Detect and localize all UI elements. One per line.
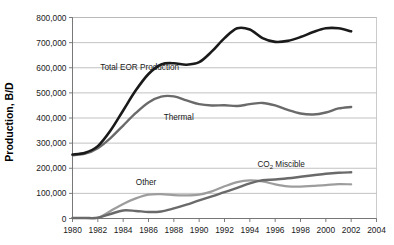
data-series-group: [73, 28, 352, 219]
y-tick-label: 500,000: [36, 88, 67, 98]
annotation-other: Other: [136, 178, 157, 187]
y-tick-label: 0: [62, 214, 67, 224]
chart-container: 0100,000200,000300,000400,000500,000600,…: [0, 0, 394, 245]
x-tick-label: 2000: [317, 225, 336, 235]
x-tick-label: 1986: [139, 225, 158, 235]
y-tick-label: 300,000: [36, 138, 67, 148]
x-tick-label: 1982: [89, 225, 108, 235]
x-tick-label: 1990: [190, 225, 209, 235]
annotation-total-eor-production: Total EOR Production: [100, 63, 179, 72]
y-axis-title: Production, B/D: [3, 82, 15, 162]
x-axis-ticks: 1980198219841986198819901992199419961998…: [63, 219, 386, 235]
annotation-co2-miscible: CO2 Miscible: [257, 160, 305, 170]
y-tick-label: 400,000: [36, 113, 67, 123]
y-axis-ticks: 0100,000200,000300,000400,000500,000600,…: [36, 13, 72, 224]
y-tick-label: 100,000: [36, 188, 67, 198]
x-tick-label: 2004: [367, 225, 386, 235]
y-tick-label: 700,000: [36, 38, 67, 48]
x-tick-label: 1992: [215, 225, 234, 235]
x-tick-label: 1994: [241, 225, 260, 235]
series-line-co2-miscible: [73, 172, 352, 218]
y-tick-label: 200,000: [36, 163, 67, 173]
x-tick-label: 1996: [266, 225, 285, 235]
annotation-thermal: Thermal: [164, 113, 194, 122]
x-tick-label: 2002: [342, 225, 361, 235]
x-tick-label: 1984: [114, 225, 133, 235]
y-tick-label: 800,000: [36, 13, 67, 23]
eor-production-line-chart: 0100,000200,000300,000400,000500,000600,…: [0, 0, 394, 245]
y-tick-label: 600,000: [36, 63, 67, 73]
x-tick-label: 1988: [165, 225, 184, 235]
x-tick-label: 1998: [291, 225, 310, 235]
x-tick-label: 1980: [63, 225, 82, 235]
